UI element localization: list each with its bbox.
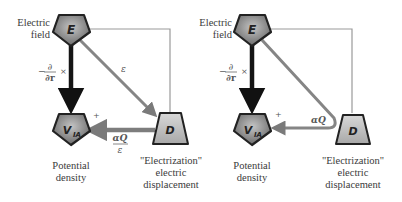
svg-text:αQ: αQ [113, 133, 128, 143]
left-label-epsilon: ε [121, 64, 126, 74]
right-node-e: E [234, 15, 271, 46]
right-label-electric-field: Electric field [190, 17, 232, 41]
left-label-alpha-over-epsilon: αQ ε [113, 133, 128, 155]
label-line: displacement [318, 179, 388, 191]
left-node-d: D [153, 113, 188, 144]
label-line: "Electrization" [136, 155, 206, 167]
right-frame-line [266, 29, 352, 113]
left-arrow-e-to-d [80, 40, 152, 112]
left-node-e: E [53, 15, 90, 46]
svg-text:V: V [63, 124, 73, 137]
svg-text:D: D [165, 124, 174, 137]
label-line: density [221, 172, 283, 184]
svg-text:×: × [60, 67, 67, 76]
label-line: Potential [221, 160, 283, 172]
right-label-potential-density: Potential density [221, 160, 283, 184]
svg-text:∂: ∂ [229, 62, 234, 72]
label-line: density [40, 172, 102, 184]
right-label-partial-derivative: − ∂ ∂r × [219, 62, 248, 83]
svg-text:D: D [348, 125, 357, 138]
svg-text:∂r: ∂r [45, 73, 55, 83]
label-line: Potential [40, 160, 102, 172]
right-diagram: E V IA D − ∂ ∂r × + αQ [219, 15, 370, 145]
left-label-potential-density: Potential density [40, 160, 102, 184]
left-label-electric-displacement: "Electrization" electric displacement [136, 155, 206, 191]
right-label-plus: + [275, 110, 282, 119]
right-label-electric-displacement: "Electrization" electric displacement [318, 155, 388, 191]
left-diagram: E V IA D − ∂ ∂r × ε + αQ ε [38, 15, 188, 155]
label-line: "Electrization" [318, 155, 388, 167]
svg-text:ε: ε [118, 145, 123, 155]
left-label-electric-field: Electric field [8, 17, 50, 41]
svg-text:∂r: ∂r [226, 73, 236, 83]
right-node-d: D [336, 115, 370, 144]
svg-text:E: E [248, 23, 257, 37]
svg-text:IA: IA [254, 131, 262, 139]
svg-text:∂: ∂ [48, 62, 53, 72]
svg-text:IA: IA [73, 131, 81, 139]
label-line: field [190, 29, 232, 41]
left-label-plus: + [93, 111, 100, 120]
svg-text:E: E [67, 23, 76, 37]
right-node-v: V IA [234, 114, 271, 145]
label-line: displacement [136, 179, 206, 191]
label-line: field [8, 29, 50, 41]
left-frame-line [84, 29, 170, 112]
left-label-partial-derivative: − ∂ ∂r × [38, 62, 67, 83]
label-line: Electric [190, 17, 232, 29]
left-node-v: V IA [53, 114, 90, 145]
label-line: electric [136, 167, 206, 179]
right-label-alpha: αQ [311, 115, 326, 125]
label-line: electric [318, 167, 388, 179]
label-line: Electric [8, 17, 50, 29]
svg-text:×: × [241, 67, 248, 76]
svg-text:V: V [244, 124, 254, 137]
